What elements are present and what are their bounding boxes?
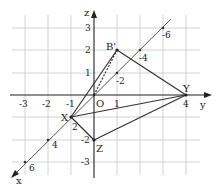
point-z-label: Z <box>96 143 103 154</box>
edge-x-y <box>71 95 186 117</box>
point-y-label: Y <box>182 83 190 94</box>
edge-o-b <box>94 50 117 95</box>
point-x-label: X <box>61 112 69 123</box>
point-b-label: B' <box>106 41 116 52</box>
point-z <box>92 138 95 141</box>
z-tick: 1 <box>85 68 91 78</box>
edge-b-y <box>117 50 186 95</box>
z-tick: 3 <box>85 23 91 33</box>
x-tick: -4 <box>139 53 148 63</box>
x-tick: 2 <box>72 122 78 132</box>
x-tick: 4 <box>52 140 58 150</box>
y-tick: 4 <box>183 99 189 109</box>
x-tick: 6 <box>29 163 35 173</box>
x-axis-label: x <box>16 175 22 186</box>
y-tick: -1 <box>66 99 75 109</box>
point-x <box>69 115 72 118</box>
y-tick: -3 <box>19 99 28 109</box>
origin-label: O <box>96 98 104 109</box>
z-tick: -2 <box>81 135 90 145</box>
y-tick: 1 <box>114 99 120 109</box>
z-axis-label: z <box>84 7 89 18</box>
y-axis-label: y <box>199 99 206 110</box>
x-tick: -2 <box>116 76 125 86</box>
z-tick: 2 <box>85 45 91 55</box>
x-tick: -6 <box>162 30 171 40</box>
x-axis <box>11 19 171 178</box>
y-tick: -2 <box>42 99 51 109</box>
point-o <box>93 94 95 96</box>
coordinate-diagram: z y x O -3 -2 -1 1 4 3 2 1 -2 -3 -2 -4 -… <box>0 0 218 187</box>
z-tick: -3 <box>81 157 90 167</box>
